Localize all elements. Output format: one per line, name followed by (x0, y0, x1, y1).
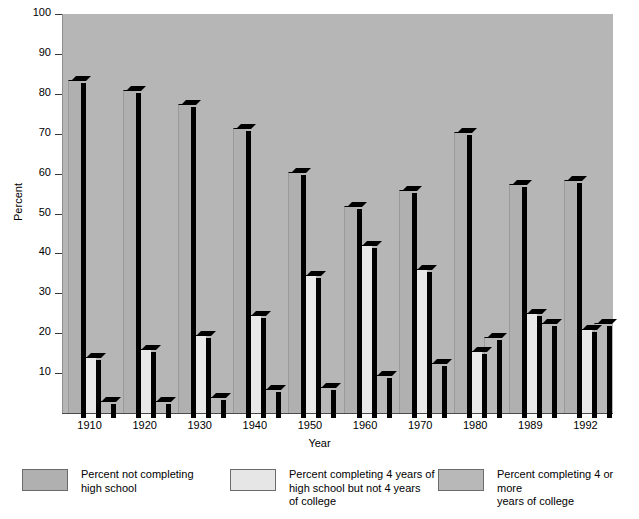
y-tick-mark (55, 134, 62, 135)
bar[interactable] (509, 184, 522, 413)
bar-shadow (166, 404, 171, 418)
x-tick-label: 1940 (225, 419, 285, 431)
bar[interactable] (454, 132, 467, 413)
x-tick-label: 1920 (115, 419, 175, 431)
legend-swatch (22, 469, 68, 491)
x-tick-label: 1910 (60, 419, 120, 431)
bar-shadow (497, 340, 502, 418)
legend: Percent not completing high schoolPercen… (0, 468, 639, 519)
y-tick: 90 (10, 54, 62, 55)
bar-group (118, 14, 173, 413)
legend-label: Percent not completing high school (81, 468, 194, 495)
y-tick-label: 20 (11, 325, 51, 338)
bar-top-shadow (597, 319, 617, 324)
legend-item[interactable]: Percent completing 4 or more years of co… (438, 468, 639, 509)
bar-top-shadow (86, 353, 106, 358)
y-tick-label: 50 (11, 206, 51, 219)
bar[interactable] (178, 104, 191, 413)
y-tick: 80 (10, 94, 62, 95)
bar-shadow (136, 93, 141, 418)
y-tick: 30 (10, 293, 62, 294)
x-tick-label: 1960 (335, 419, 395, 431)
y-tick: 60 (10, 174, 62, 175)
bar-chart: Percent 102030405060708090100 1910192019… (0, 0, 639, 519)
legend-swatch (230, 469, 276, 491)
legend-item[interactable]: Percent completing 4 years of high schoo… (230, 468, 435, 509)
bar[interactable] (68, 80, 81, 413)
bar-shadow (316, 278, 321, 418)
bar[interactable] (399, 190, 412, 413)
bar-shadow (412, 193, 417, 418)
bar-top-shadow (181, 100, 201, 105)
x-axis-title: Year (0, 437, 639, 449)
x-tick-label: 1970 (390, 419, 450, 431)
bar-top-shadow (71, 76, 91, 81)
y-tick-mark (55, 54, 62, 55)
y-tick-label: 70 (11, 126, 51, 139)
bar[interactable] (123, 90, 136, 413)
bar[interactable] (344, 206, 357, 413)
bar-top-shadow (236, 124, 256, 129)
y-tick-mark (55, 373, 62, 374)
bar[interactable] (233, 128, 246, 413)
bars-container (63, 14, 613, 413)
bar[interactable] (288, 172, 301, 413)
y-tick-label: 100 (11, 6, 51, 19)
y-tick-label: 40 (11, 245, 51, 258)
bar-shadow (607, 326, 612, 418)
bar-shadow (482, 354, 487, 418)
bar[interactable] (564, 180, 577, 413)
bar-top-shadow (417, 265, 437, 270)
y-tick: 50 (10, 214, 62, 215)
bar-group (394, 14, 449, 413)
x-tick-label: 1930 (170, 419, 230, 431)
y-tick: 40 (10, 253, 62, 254)
bar-group (559, 14, 614, 413)
legend-label: Percent completing 4 or more years of co… (497, 468, 639, 509)
bar-top-shadow (251, 311, 271, 316)
bar-group (339, 14, 394, 413)
x-tick-label: 1980 (445, 419, 505, 431)
bar-top-shadow (567, 176, 587, 181)
y-tick-mark (55, 94, 62, 95)
y-tick-mark (55, 14, 62, 15)
bar-shadow (206, 338, 211, 418)
y-tick-mark (55, 174, 62, 175)
bar-shadow (552, 326, 557, 418)
legend-label: Percent completing 4 years of high schoo… (289, 468, 435, 509)
bar-top-shadow (141, 345, 161, 350)
x-tick-label: 1989 (500, 419, 560, 431)
plot-area (62, 14, 613, 413)
bar-top-shadow (362, 241, 382, 246)
bar-shadow (522, 187, 527, 418)
bar-group (63, 14, 118, 413)
y-tick-mark (55, 253, 62, 254)
x-tick-label: 1992 (555, 419, 615, 431)
bar-top-shadow (527, 309, 547, 314)
bar-top-shadow (126, 86, 146, 91)
bar-shadow (81, 83, 86, 418)
bar-shadow (442, 366, 447, 418)
bar-shadow (537, 316, 542, 418)
bar-top-shadow (291, 168, 311, 173)
bar-shadow (261, 318, 266, 418)
legend-item[interactable]: Percent not completing high school (22, 468, 194, 495)
bar-shadow (427, 272, 432, 418)
y-tick: 100 (10, 14, 62, 15)
bar-shadow (577, 183, 582, 418)
bar-shadow (357, 209, 362, 418)
bar-shadow (372, 248, 377, 418)
bar-top-shadow (457, 128, 477, 133)
bar-top-shadow (512, 180, 532, 185)
bar-shadow (276, 392, 281, 418)
bar-group (504, 14, 559, 413)
y-tick-mark (55, 293, 62, 294)
bar-group (283, 14, 338, 413)
bar-shadow (246, 131, 251, 418)
y-tick-label: 30 (11, 285, 51, 298)
bar-shadow (151, 352, 156, 418)
x-axis-line (62, 413, 613, 414)
bar-group (228, 14, 283, 413)
y-tick-label: 90 (11, 46, 51, 59)
bar-top-shadow (347, 202, 367, 207)
